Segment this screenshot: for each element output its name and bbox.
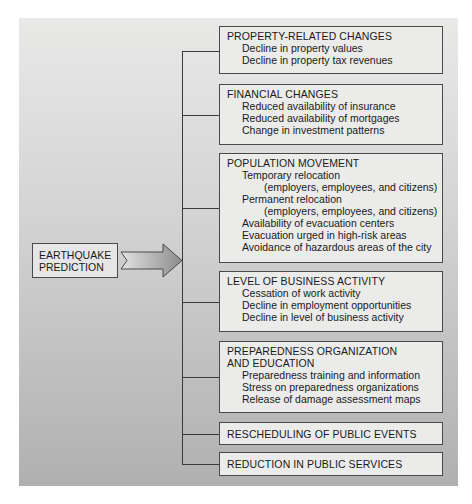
category-title: REDUCTION IN PUBLIC SERVICES xyxy=(227,458,442,470)
category-box-rescheduling: RESCHEDULING OF PUBLIC EVENTS xyxy=(219,422,443,445)
category-item: Reduced availability of insurance xyxy=(227,100,442,112)
category-item: Change in investment patterns xyxy=(227,124,442,136)
category-title-line1: PREPAREDNESS ORGANIZATION xyxy=(227,345,442,357)
category-subitem: (employers, employees, and citizens) xyxy=(227,205,442,217)
category-item: Cessation of work activity xyxy=(227,287,442,299)
category-title: POPULATION MOVEMENT xyxy=(227,157,442,169)
category-item: Temporary relocation xyxy=(227,169,442,181)
right-arrow-icon xyxy=(120,243,184,278)
category-item: Preparedness training and information xyxy=(227,369,442,381)
connector-branch-rescheduling xyxy=(182,434,220,435)
category-title: FINANCIAL CHANGES xyxy=(227,88,442,100)
category-box-property: PROPERTY-RELATED CHANGES Decline in prop… xyxy=(219,26,443,74)
category-item: Reduced availability of mortgages xyxy=(227,112,442,124)
category-item: Evacuation urged in high-risk areas xyxy=(227,229,442,241)
connector-branch-financial xyxy=(182,115,220,116)
category-box-business: LEVEL OF BUSINESS ACTIVITY Cessation of … xyxy=(219,271,443,332)
earthquake-prediction-box: EARTHQUAKE PREDICTION xyxy=(32,243,118,278)
category-item: Release of damage assessment maps xyxy=(227,393,442,405)
category-item: Permanent relocation xyxy=(227,193,442,205)
connector-branch-population xyxy=(182,208,220,209)
source-label-line1: EARTHQUAKE xyxy=(39,249,117,261)
connector-branch-business xyxy=(182,302,220,303)
category-item: Decline in level of business activity xyxy=(227,311,442,323)
category-title-line2: AND EDUCATION xyxy=(227,357,442,369)
category-subitem: (employers, employees, and citizens) xyxy=(227,181,442,193)
connector-branch-property xyxy=(182,51,220,52)
category-box-financial: FINANCIAL CHANGES Reduced availability o… xyxy=(219,84,443,145)
category-title: RESCHEDULING OF PUBLIC EVENTS xyxy=(227,428,442,440)
category-item: Decline in employment opportunities xyxy=(227,299,442,311)
source-label-line2: PREDICTION xyxy=(39,261,117,273)
connector-branch-preparedness xyxy=(182,377,220,378)
category-item: Availability of evacuation centers xyxy=(227,217,442,229)
category-title: PROPERTY-RELATED CHANGES xyxy=(227,30,442,42)
category-box-reduction: REDUCTION IN PUBLIC SERVICES xyxy=(219,452,443,476)
category-item: Decline in property values xyxy=(227,42,442,54)
category-item: Stress on preparedness organizations xyxy=(227,381,442,393)
category-box-population: POPULATION MOVEMENT Temporary relocation… xyxy=(219,153,443,263)
category-title: LEVEL OF BUSINESS ACTIVITY xyxy=(227,275,442,287)
connector-branch-reduction xyxy=(182,464,220,465)
category-item: Avoidance of hazardous areas of the city xyxy=(227,241,442,253)
connector-trunk xyxy=(182,51,183,465)
category-item: Decline in property tax revenues xyxy=(227,54,442,66)
category-box-preparedness: PREPAREDNESS ORGANIZATION AND EDUCATION … xyxy=(219,341,443,413)
